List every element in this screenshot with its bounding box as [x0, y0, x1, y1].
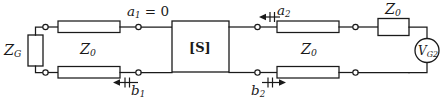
transmission-line-right-bottom: [277, 67, 339, 79]
wire-top-right-to-source: [409, 27, 427, 39]
label-line-impedance-right: Z0: [301, 42, 317, 57]
series-impedance-z0-right-body: [378, 19, 409, 36]
label-incident-wave-port2: a2: [277, 4, 291, 18]
label-incident-wave-port1: a1 = 0: [127, 5, 169, 19]
node-top-left-terminal: [43, 24, 48, 29]
circuit-schematic-svg: [0, 0, 446, 100]
node-port2-top: [255, 24, 260, 29]
node-bottom-left-terminal: [43, 70, 48, 75]
label-reflected-wave-port1: b1: [131, 84, 145, 98]
circuit-diagram: ZG Z0 a1 = 0 b1 [S] a2 b2 Z0 Z0 VG2: [0, 0, 446, 100]
arrow-a2-head: [259, 14, 266, 20]
zg-bottom-lead: [36, 66, 44, 73]
label-line-impedance-left: Z0: [80, 42, 96, 57]
node-port1-top: [136, 24, 141, 29]
node-top-right-mid: [353, 24, 358, 29]
transmission-line-left-top: [58, 21, 120, 33]
arrow-b2: [262, 78, 286, 88]
wire-bottom-right-to-source: [409, 63, 427, 73]
label-reflected-wave-port2: b2: [251, 84, 265, 98]
transmission-line-right-top: [277, 21, 339, 33]
label-s-parameter-block: [S]: [189, 41, 211, 54]
arrow-b1-head: [113, 79, 120, 85]
label-voltage-source-vg2: VG2: [418, 45, 438, 59]
node-port1-bottom: [136, 70, 141, 75]
node-bottom-right-mid: [353, 70, 358, 75]
transmission-line-left-bottom: [58, 67, 120, 79]
node-port2-bottom: [255, 70, 260, 75]
zg-top-lead: [36, 27, 44, 35]
generator-impedance-zg-body: [28, 35, 43, 66]
arrow-b2-head: [279, 79, 286, 85]
label-series-impedance-right: Z0: [385, 2, 401, 17]
label-generator-impedance-zg: ZG: [4, 43, 21, 58]
